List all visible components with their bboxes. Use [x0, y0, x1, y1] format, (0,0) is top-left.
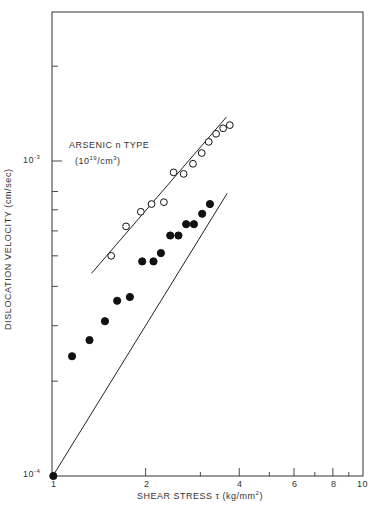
y-tick-label-1e-4: 10-4	[23, 468, 40, 479]
filled-circle-marker	[101, 318, 108, 325]
filled-circle-marker	[139, 258, 146, 265]
open-circle-marker	[220, 125, 227, 132]
filled-circle-marker	[199, 210, 206, 217]
open-circle-marker	[170, 169, 177, 176]
filled-circle-marker	[167, 232, 174, 239]
filled-circle-marker	[175, 232, 182, 239]
filled-circle-marker	[190, 221, 197, 228]
filled-circle-marker	[68, 353, 75, 360]
open-circle-marker	[148, 201, 155, 208]
annotation-line2: (1019/cm3)	[75, 155, 121, 166]
x-tick-label-2: 2	[144, 479, 150, 489]
x-tick-label-6: 6	[292, 479, 298, 489]
axes	[52, 12, 363, 476]
y-axis-label: DISLOCATION VELOCITY (cm/sec)	[3, 168, 13, 330]
x-axis-label: SHEAR STRESS τ (kg/mm2)	[137, 490, 263, 501]
y-tick-label-1e-3: 10-3	[23, 154, 40, 165]
filled-circle-marker	[114, 297, 121, 304]
open-circle-marker	[123, 223, 130, 230]
x-tick-label-10: 10	[357, 479, 368, 489]
open-circle-marker	[161, 199, 168, 206]
annotation-line1: ARSENIC n TYPE	[69, 140, 149, 150]
open-circle-marker	[205, 138, 212, 145]
open-circle-marker	[190, 160, 197, 167]
fit-line-reference	[52, 193, 227, 477]
filled-circle-marker	[157, 250, 164, 257]
filled-circle-marker	[206, 200, 213, 207]
chart-plot-area	[0, 0, 381, 510]
filled-circle-marker	[126, 293, 133, 300]
open-circle-marker	[226, 122, 233, 129]
x-tick-label-1: 1	[51, 479, 57, 489]
open-circle-marker	[137, 208, 144, 215]
open-circle-marker	[108, 252, 115, 259]
x-tick-label-8: 8	[331, 479, 337, 489]
filled-circle-marker	[183, 221, 190, 228]
filled-circle-marker	[86, 337, 93, 344]
filled-circle-marker	[150, 258, 157, 265]
open-circle-marker	[213, 130, 220, 137]
x-tick-label-4: 4	[237, 479, 243, 489]
open-circle-marker	[180, 171, 187, 178]
plot-frame	[52, 12, 363, 476]
open-circle-marker	[198, 150, 205, 157]
